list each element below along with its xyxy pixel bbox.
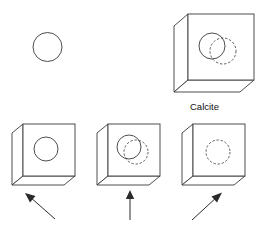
source-circle-group	[33, 33, 62, 62]
crystal-view-center	[97, 124, 160, 185]
calcite-top-front-face	[188, 14, 254, 80]
figure-canvas: Calcite	[0, 0, 263, 229]
arrow-up-right-shaft	[192, 197, 218, 221]
crystal-view-left	[12, 124, 75, 185]
view-center-front-face	[108, 124, 160, 176]
arrow-up	[126, 190, 134, 220]
calcite-caption-label: Calcite	[190, 101, 219, 112]
view-right-bottom-face	[182, 176, 245, 185]
arrow-up-left-head	[25, 193, 36, 203]
arrow-up-left	[25, 193, 55, 219]
arrow-up-head	[126, 190, 134, 199]
source-circle	[33, 33, 62, 62]
view-center-bottom-face	[97, 176, 160, 185]
arrow-up-left-shaft	[30, 197, 56, 220]
view-right-front-face	[193, 124, 245, 176]
calcite-crystal-top	[174, 14, 254, 92]
calcite-top-bottom-face	[174, 80, 254, 92]
arrow-up-right	[192, 193, 222, 221]
view-left-bottom-face	[12, 176, 75, 185]
view-left-side-face	[12, 124, 23, 185]
view-center-side-face	[97, 124, 108, 185]
view-left-front-face	[23, 124, 75, 176]
view-right-side-face	[182, 124, 193, 185]
calcite-top-left-face	[174, 14, 188, 92]
crystal-view-right	[182, 124, 245, 185]
calcite-refraction-figure: Calcite	[0, 0, 263, 229]
